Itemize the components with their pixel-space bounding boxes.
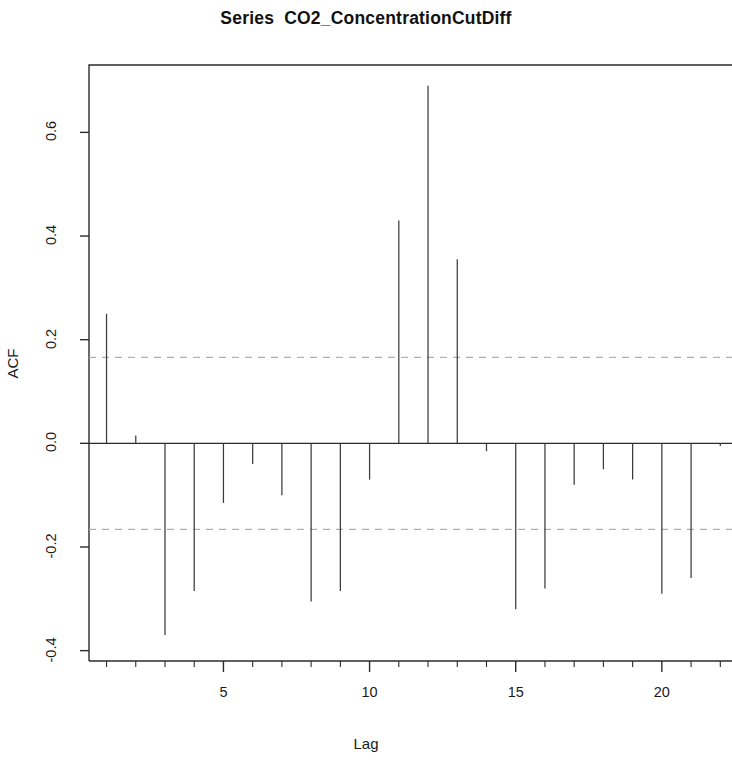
y-tick-label-0.0: 0.0 — [43, 420, 59, 464]
y-tick-label--0.4: -0.4 — [43, 628, 59, 672]
x-tick-label-5: 5 — [198, 684, 248, 700]
plot-frame — [89, 65, 732, 661]
x-tick-label-10: 10 — [345, 684, 395, 700]
acf-plot: Series CO2_ConcentrationCutDiff ACF Lag … — [0, 0, 732, 762]
y-tick-label-0.2: 0.2 — [43, 317, 59, 361]
y-tick-label--0.2: -0.2 — [43, 524, 59, 568]
x-tick-label-15: 15 — [491, 684, 541, 700]
chart-canvas — [0, 0, 732, 762]
y-tick-label-0.6: 0.6 — [43, 109, 59, 153]
y-tick-label-0.4: 0.4 — [43, 213, 59, 257]
x-tick-label-20: 20 — [637, 684, 687, 700]
